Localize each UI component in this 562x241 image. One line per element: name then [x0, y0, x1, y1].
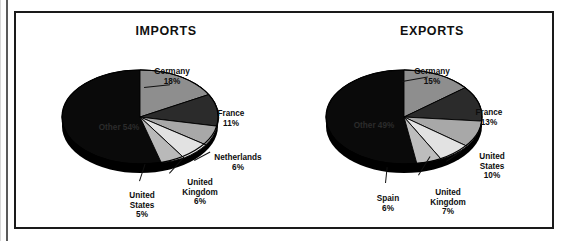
imports-pie-chart: Other 54% Germany 18% France 11% Netherl… [16, 13, 284, 227]
imports-germany-name: Germany [154, 67, 190, 76]
imports-uk-name2: Kingdom [172, 188, 228, 198]
imports-label-germany: Germany 18% [136, 67, 208, 87]
exports-slice-label-other: Other 49% [346, 121, 402, 131]
imports-slice-label-other: Other 54% [91, 123, 147, 133]
exports-spain-name: Spain [377, 194, 399, 203]
exports-pie-chart: Other 49% Germany 15% France 13% United … [284, 13, 552, 227]
exports-label-spain: Spain 6% [362, 194, 414, 214]
imports-france-pct: 11% [202, 119, 260, 129]
imports-label-france: France 11% [202, 109, 260, 129]
exports-label-united-kingdom: United Kingdom 7% [419, 188, 477, 217]
exports-other-name: Other [354, 121, 376, 130]
exports-label-united-states: United States 10% [464, 152, 520, 181]
imports-label-netherlands: Netherlands 6% [199, 153, 277, 173]
panel-imports: IMPORTS [16, 13, 284, 227]
exports-label-germany: Germany 15% [396, 67, 468, 87]
exports-uk-name2: Kingdom [419, 198, 477, 208]
imports-other-pct: 54% [123, 123, 139, 132]
exports-other-pct: 49% [378, 121, 394, 130]
page-edge-rule [0, 0, 1, 241]
exports-france-name: France [476, 108, 503, 117]
page-gutter-rule [6, 0, 8, 241]
imports-uk-pct: 6% [172, 197, 228, 207]
imports-label-united-states: United States 5% [114, 191, 170, 220]
imports-us-name1: United [129, 191, 154, 200]
imports-label-united-kingdom: United Kingdom 6% [172, 178, 228, 207]
figure-frame: IMPORTS [14, 11, 554, 229]
imports-us-pct: 5% [114, 210, 170, 220]
panel-exports: EXPORTS [284, 13, 552, 227]
exports-us-name2: States [464, 162, 520, 172]
exports-germany-name: Germany [414, 67, 450, 76]
imports-uk-name1: United [187, 178, 212, 187]
imports-netherlands-name: Netherlands [214, 153, 261, 162]
exports-uk-name1: United [435, 188, 460, 197]
exports-label-france: France 13% [460, 108, 518, 128]
exports-uk-pct: 7% [419, 207, 477, 217]
exports-us-name1: United [479, 152, 504, 161]
exports-germany-pct: 15% [396, 77, 468, 87]
exports-france-pct: 13% [460, 118, 518, 128]
exports-spain-pct: 6% [362, 204, 414, 214]
imports-other-name: Other [99, 123, 121, 132]
imports-france-name: France [218, 109, 245, 118]
exports-us-pct: 10% [464, 171, 520, 181]
imports-netherlands-pct: 6% [199, 163, 277, 173]
imports-germany-pct: 18% [136, 77, 208, 87]
imports-us-name2: States [114, 201, 170, 211]
